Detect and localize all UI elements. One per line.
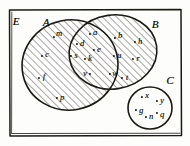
element-label-e: e bbox=[97, 45, 101, 54]
element-label-v: v bbox=[83, 69, 87, 78]
element-label-x: x bbox=[145, 91, 149, 100]
element-label-q: q bbox=[160, 110, 164, 119]
diagram-canvas bbox=[0, 0, 190, 146]
element-label-b: b bbox=[118, 31, 122, 40]
element-label-y: y bbox=[160, 96, 164, 105]
element-label-m: m bbox=[56, 29, 62, 38]
element-label-f: f bbox=[43, 72, 45, 81]
set-label-a: A bbox=[43, 17, 50, 28]
set-label-e: E bbox=[13, 16, 20, 27]
element-label-r: r bbox=[136, 54, 139, 63]
venn-diagram-figure: E A B C mcfpadeskvbhurwtxygnq bbox=[0, 0, 190, 146]
element-label-k: k bbox=[88, 54, 92, 63]
element-label-n: n bbox=[149, 112, 153, 121]
set-label-b: B bbox=[152, 19, 159, 30]
element-label-a: a bbox=[93, 28, 97, 37]
set-label-c: C bbox=[166, 75, 173, 86]
element-label-p: p bbox=[60, 93, 64, 102]
element-label-h: h bbox=[138, 37, 142, 46]
element-label-c: c bbox=[45, 50, 49, 59]
element-label-t: t bbox=[126, 73, 128, 82]
element-label-g: g bbox=[139, 106, 143, 115]
element-label-d: d bbox=[80, 39, 84, 48]
set-c-outline bbox=[128, 87, 172, 129]
element-label-s: s bbox=[74, 51, 77, 60]
element-label-w: w bbox=[112, 69, 118, 78]
element-label-u: u bbox=[117, 51, 121, 60]
